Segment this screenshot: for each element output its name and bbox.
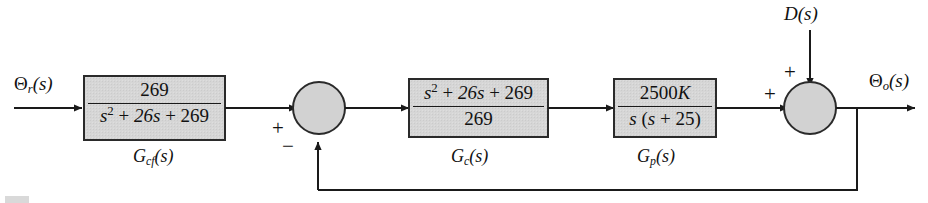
gp-numerator: 2500K: [616, 83, 714, 104]
block-diagram: Θr(s) 269 s2 + 26s + 269 Gcf(s) + − s2 +…: [0, 0, 928, 203]
gcf-numerator: 269: [86, 80, 223, 101]
block-gc-sublabel: Gc(s): [451, 147, 488, 165]
gc-denominator: 269: [411, 109, 546, 130]
block-gp-sublabel: Gp(s): [637, 147, 675, 165]
gcf-denominator: s2 + 26s + 269: [86, 106, 223, 127]
input-signal-label: Θr(s): [14, 74, 53, 93]
sum2-input-plus-sign: +: [764, 84, 776, 105]
sum-junction-2-shape: [784, 82, 836, 134]
disturbance-signal-label: D(s): [784, 4, 818, 23]
gp-fraction-bar: [618, 106, 712, 107]
scan-artifact: [5, 196, 29, 203]
block-gcf-transfer-function: 269 s2 + 26s + 269: [86, 80, 223, 126]
gp-denominator: s (s + 25): [616, 109, 714, 130]
block-gcf-sublabel: Gcf(s): [133, 147, 174, 165]
gc-numerator: s2 + 26s + 269: [411, 83, 546, 104]
gc-fraction-bar: [413, 106, 544, 107]
block-gc-transfer-function: s2 + 26s + 269 269: [411, 83, 546, 129]
block-gp-transfer-function: 2500K s (s + 25): [616, 83, 714, 129]
sum2-disturbance-plus-sign: +: [784, 62, 796, 83]
sum-junction-1-shape: [293, 82, 345, 134]
sum1-minus-sign: −: [282, 136, 294, 157]
output-signal-label: Θo(s): [869, 71, 909, 90]
